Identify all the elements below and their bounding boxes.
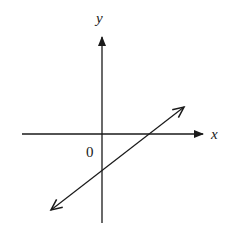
origin-label: 0 (86, 144, 94, 160)
y-axis-label: y (94, 10, 103, 26)
graphed-line (51, 107, 184, 210)
x-axis-label: x (210, 126, 218, 142)
coordinate-plane-diagram: y x 0 (0, 0, 227, 229)
